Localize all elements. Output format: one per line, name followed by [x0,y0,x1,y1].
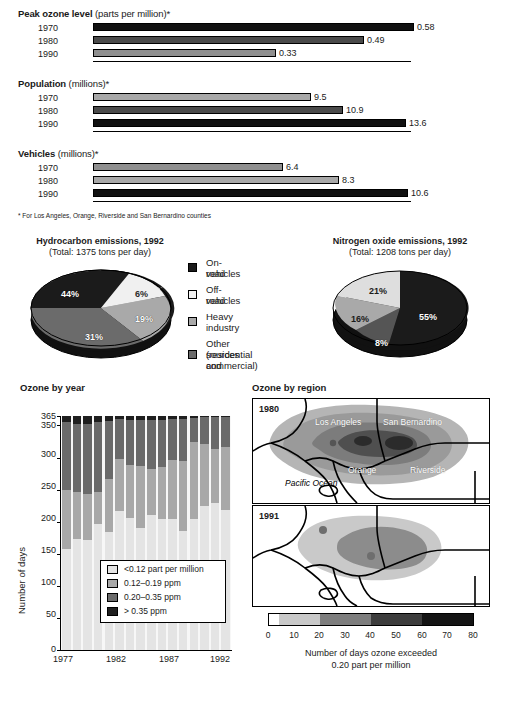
ozone-by-year-chart: Ozone by year Number of days 365 350 300… [0,382,248,702]
stacked-bar-segment [94,422,103,493]
colorbar-tick-label: 70 [437,630,457,640]
panel-title: Vehicles (millions)* [18,148,98,159]
panel-population: Population (millions)* 1970 9.5 1980 10.… [18,78,498,140]
panel-title: Peak ozone level (parts per million)* [18,8,170,19]
bar [93,106,343,114]
y-tick-label: 200 [30,513,56,523]
pie-slice-label: 31% [85,332,103,342]
y-tick-mark [57,490,60,491]
nitrogen-oxide-pie: 55% 8% 16% 21% [327,262,473,366]
stacked-bar-segment [73,492,82,539]
stacked-bar-segment [73,539,82,650]
stacked-bar-segment [105,416,114,421]
stacked-bar-segment [62,416,71,422]
panel-title-bold: Peak ozone level [18,8,92,19]
legend-label: <0.12 part per million [124,564,204,574]
bar [93,119,406,127]
panel-title: Population (millions)* [18,78,109,89]
bar-row: 1980 10.9 [18,105,498,117]
nitrogen-oxide-pie-svg [327,262,473,366]
hydrocarbon-pie-title: Hydrocarbon emissions, 1992 [10,236,190,246]
y-tick-mark [57,586,60,587]
legend-label-line1: Heavy [206,312,233,323]
stacked-bar-segment [126,416,135,420]
panel-title-unit: (millions)* [66,78,109,89]
stacked-bar-segment [200,444,209,506]
panel-baseline [93,201,411,202]
legend-label: 0.20–0.35 ppm [124,592,181,602]
region-label-san-bernardino: San Bernardino [383,417,442,427]
map-colorbar [268,613,474,626]
map-1991-svg [253,506,489,606]
legend-label-line2: vehicles [206,296,240,307]
stacked-bar-segment [83,424,92,494]
bar-row: 1970 9.5 [18,92,498,104]
stacked-bar-segment [115,459,124,511]
x-tick-label: 1982 [101,654,131,664]
bar-value: 9.5 [314,92,327,102]
stacked-bar-segment [221,447,230,509]
legend-swatch-icon [107,593,118,602]
panel-baseline [93,131,411,132]
legend-swatch-icon [188,350,197,359]
hydrocarbon-pie: 44% 6% 19% 31% [25,262,177,366]
bar-row-year: 1980 [18,176,58,186]
stacked-bar-segment [211,449,220,502]
bar-row: 1990 0.33 [18,48,498,60]
region-label-los-angeles: Los Angeles [315,417,361,427]
colorbar-segment [279,614,320,625]
chart-title: Ozone by region [252,382,326,393]
stacked-bar-segment [211,417,220,449]
y-tick-label: 0 [30,644,56,654]
y-tick-mark [57,425,60,426]
panel-title-unit: (parts per million)* [92,8,170,19]
y-tick-label: 350 [30,420,56,430]
bar-row: 1970 0.58 [18,22,498,34]
stacked-bar-segment [105,479,114,532]
stacked-bar-segment [211,416,220,417]
bar-row-year: 1980 [18,36,58,46]
stacked-bar-segment [62,422,71,490]
stacked-bar-segment [190,418,199,442]
panel-title-unit: (millions)* [55,148,98,159]
pie-charts-section: Hydrocarbon emissions, 1992 (Total: 1375… [0,236,508,376]
pie-slice-label: 8% [375,338,388,348]
map-year-label: 1980 [259,404,279,414]
bar-row-year: 1990 [18,119,58,129]
bar-value: 13.6 [409,118,427,128]
bar [93,23,414,31]
stacked-bar-segment [115,419,124,459]
stacked-bar-segment [94,416,103,422]
colorbar-tick-label: 40 [360,630,380,640]
stacked-bar-segment [221,417,230,448]
legend-swatch-icon [107,579,118,588]
legend-label-line2: vehicles [206,269,240,280]
stacked-bar-segment [168,419,177,459]
ozone-by-region-section: Ozone by region 1980 [248,382,508,702]
colorbar-caption-line1: Number of days ozone exceeded [248,648,494,658]
bar-row-year: 1970 [18,163,58,173]
stacked-bar-segment [62,490,71,550]
legend-label-line2: industry [206,323,239,334]
stacked-bar-segment [73,424,82,493]
stacked-bar-segment [200,417,209,444]
pie-legend: On-road vehicles Off-road vehicles Heavy… [188,258,298,373]
map-1980: 1980 Los Angeles San Bernardino Orange R… [252,398,490,504]
y-tick-mark [57,458,60,459]
pie-slice-label: 55% [419,312,437,322]
chart-title: Ozone by year [20,382,85,393]
map-1991: 1991 [252,505,490,607]
stacked-bar-segment [126,465,135,518]
x-tick-label: 1987 [154,654,184,664]
pie-slice-label: 21% [369,286,387,296]
region-label-riverside: Riverside [410,465,445,475]
stacked-bar-segment [115,416,124,419]
colorbar-tick-label: 0 [258,630,278,640]
stacked-bar-segment [190,416,199,418]
bar [93,36,364,44]
y-tick-mark [57,650,60,651]
x-tick-label: 1977 [48,654,78,664]
stacked-bar-segment [147,420,156,469]
legend-label: 0.12–0.19 ppm [124,578,181,588]
y-tick-label: 50 [30,609,56,619]
